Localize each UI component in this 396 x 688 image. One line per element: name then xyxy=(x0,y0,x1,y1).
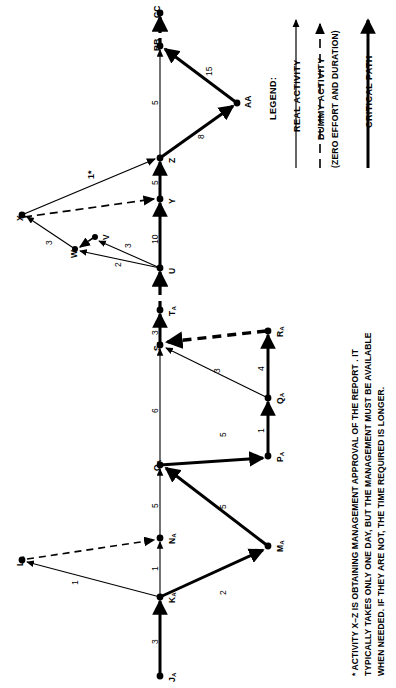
node-Y xyxy=(157,196,164,203)
node-label-U: U xyxy=(167,268,177,274)
node-U xyxy=(157,265,164,272)
event-nodes xyxy=(19,10,272,680)
node-V xyxy=(92,234,98,240)
node-label-Z: Z xyxy=(167,158,177,163)
node-label-PA: PA xyxy=(275,452,285,462)
edge-OA-PA xyxy=(160,458,263,465)
node-PA xyxy=(265,453,272,460)
duration-label: 6 xyxy=(150,408,160,413)
activity-edges xyxy=(24,17,268,676)
duration-label: 5 xyxy=(150,100,160,105)
node-label-MA: MA xyxy=(275,540,285,552)
duration-label: 5 xyxy=(150,180,160,185)
node-MA xyxy=(265,543,272,550)
edge-Z-AA xyxy=(160,106,233,158)
edge-KA-LA xyxy=(27,562,160,597)
edge-KA-MA xyxy=(160,550,263,597)
node-label-BB: BB xyxy=(152,38,162,51)
duration-label: 1 xyxy=(70,580,80,585)
footnote-line-1: * ACTIVITY X–Z IS OBTAINING MANAGEMENT A… xyxy=(350,349,360,676)
edge-V-W xyxy=(80,238,93,247)
node-label-Y: Y xyxy=(167,198,177,204)
edge-X-Y xyxy=(24,199,154,217)
node-label-CC: CC xyxy=(152,5,162,18)
duration-label: 4 xyxy=(256,366,266,371)
node-label-W: W xyxy=(69,250,79,258)
legend-title: LEGEND: xyxy=(268,77,278,120)
node-Z xyxy=(157,155,164,162)
pert-network-figure: CC BB AA Z Y X W V U TA SA RA QA PA OA M… xyxy=(0,0,396,688)
node-KA xyxy=(157,594,164,601)
edge-X-Z xyxy=(24,159,155,214)
duration-label: 3 xyxy=(123,243,133,248)
edge-QA-SA xyxy=(166,348,268,398)
node-label-NA: NA xyxy=(167,533,177,544)
footnote-line-3: WHEN NEEDED. IF THEY ARE NOT, THE TIME R… xyxy=(376,387,386,676)
node-label-SA: SA xyxy=(152,341,162,351)
node-label-TA: TA xyxy=(167,306,177,316)
footnote-line-2: TYPICALLY TAKES ONLY ONE DAY, BUT THE MA… xyxy=(363,332,373,676)
node-label-AA: AA xyxy=(243,95,253,108)
legend-sublabel-dummy-activity: (ZERO EFFORT AND DURATION) xyxy=(330,30,340,168)
node-label-KA: KA xyxy=(167,592,177,603)
edge-LA-NA xyxy=(27,540,154,559)
node-label-JA: JA xyxy=(167,673,177,682)
node-label-QA: QA xyxy=(275,393,285,404)
duration-label: 8 xyxy=(196,134,206,139)
duration-label-starred: 1* xyxy=(86,170,96,179)
edge-MA-OA xyxy=(166,468,268,546)
node-AA xyxy=(234,100,241,107)
node-JA xyxy=(157,673,164,680)
duration-label: 3 xyxy=(150,330,160,335)
edge-AA-BB xyxy=(165,49,237,103)
duration-label: 3 xyxy=(212,368,222,373)
node-label-OA: OA xyxy=(152,460,162,471)
node-TA xyxy=(157,307,164,314)
edge-RA-SA xyxy=(167,331,266,342)
duration-label: 5 xyxy=(218,432,228,437)
legend-label-critical-path: CRITICAL PATH xyxy=(364,55,374,128)
node-label-X: X xyxy=(15,215,25,221)
duration-label: 3 xyxy=(150,639,160,644)
legend-label-dummy-activity: DUMMY ACTIVITY xyxy=(316,57,326,140)
node-RA xyxy=(265,328,272,335)
legend-label-real-activity: REAL ACTIVITY xyxy=(292,59,302,132)
duration-label: 5 xyxy=(218,504,228,509)
duration-label: 1 xyxy=(256,428,266,433)
duration-label: 2 xyxy=(218,590,228,595)
node-label-LA: LA xyxy=(15,556,25,566)
node-label-V: V xyxy=(101,234,111,240)
node-label-RA: RA xyxy=(275,326,285,337)
duration-label: 5 xyxy=(150,503,160,508)
node-NA xyxy=(157,535,164,542)
node-QA xyxy=(265,395,272,402)
duration-label: 15 xyxy=(204,67,214,76)
duration-label: 10 xyxy=(150,235,160,244)
duration-label: 1 xyxy=(150,566,160,571)
duration-label: 3 xyxy=(44,240,54,245)
duration-label: 2 xyxy=(113,262,123,267)
